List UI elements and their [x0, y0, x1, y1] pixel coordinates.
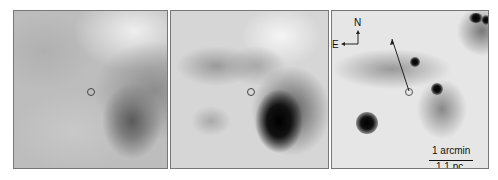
compass-icon: [332, 11, 392, 61]
target-circle-marker: [247, 88, 255, 96]
target-circle-marker: [87, 88, 95, 96]
scale-bar-bottom-label: 1.1 pc: [436, 161, 463, 169]
scale-bar-top-label: 1 arcmin: [432, 145, 470, 156]
image-panel-1: [13, 10, 168, 169]
compass-east-label: E: [332, 39, 339, 50]
image-panel-2: [170, 10, 329, 169]
compass-north-label: N: [354, 17, 361, 28]
image-panel-3: N E 1 arcmin 1.1 pc: [331, 10, 489, 169]
